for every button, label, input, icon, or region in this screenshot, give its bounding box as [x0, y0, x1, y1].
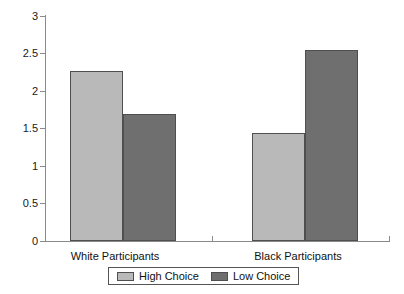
y-axis-tick-label: 0.5: [0, 198, 38, 209]
x-axis-category-label-black: Black Participants: [235, 250, 361, 262]
x-axis-line: [45, 241, 390, 242]
x-axis-category-label-white: White Participants: [52, 250, 178, 262]
legend-item-low-choice: Low Choice: [211, 270, 290, 282]
legend-swatch-icon-high-choice: [117, 272, 134, 281]
legend-swatch-icon-low-choice: [211, 272, 228, 281]
legend-label-low-choice: Low Choice: [233, 270, 290, 282]
bar-white-high-choice: [70, 71, 123, 241]
plot-area: [46, 16, 390, 241]
y-axis-tick-label: 3: [0, 11, 38, 22]
bar-black-low-choice: [305, 50, 358, 241]
bar-black-high-choice: [252, 133, 305, 241]
bar-white-low-choice: [123, 114, 176, 242]
legend-label-high-choice: High Choice: [139, 270, 199, 282]
y-axis-tick-label: 1.5: [0, 123, 38, 134]
y-axis-tick-label: 1: [0, 161, 38, 172]
legend-item-high-choice: High Choice: [117, 270, 199, 282]
y-axis-tick-label: 2: [0, 86, 38, 97]
bar-chart: 3 2.5 2 1.5 1 0.5 0 White Participants B…: [0, 0, 404, 294]
chart-legend: High Choice Low Choice: [108, 267, 299, 285]
y-axis-tick-label: 0: [0, 236, 38, 247]
y-axis-tick-label: 2.5: [0, 48, 38, 59]
